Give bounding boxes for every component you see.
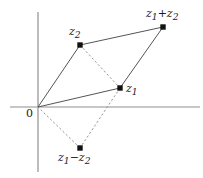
point-marker-difference bbox=[77, 145, 82, 150]
difference-label-operator: − bbox=[70, 151, 79, 164]
z1-label-subscript: 1 bbox=[132, 86, 138, 97]
origin-label-text: 0 bbox=[26, 107, 33, 120]
edge-origin-to-z2 bbox=[38, 45, 80, 107]
z1-label: z1 bbox=[126, 83, 138, 96]
dashed-edge-z1-to-difference bbox=[80, 88, 120, 148]
diagram-canvas bbox=[0, 0, 203, 178]
difference-label-second-subscript: 2 bbox=[85, 155, 91, 166]
origin-label: 0 bbox=[26, 108, 33, 119]
edge-z2-to-sum bbox=[80, 27, 163, 45]
edge-origin-to-z1 bbox=[38, 88, 120, 107]
sum-label-operator: + bbox=[158, 7, 167, 20]
z2-label: z2 bbox=[69, 26, 81, 39]
vector-diagram-figure: 0 z2 z1 z1+z2 z1−z2 bbox=[0, 0, 203, 178]
sum-label-second-subscript: 2 bbox=[173, 11, 179, 22]
difference-label: z1−z2 bbox=[58, 152, 90, 165]
dashed-edge-z2-to-z1 bbox=[80, 45, 120, 88]
point-marker-sum bbox=[160, 24, 165, 29]
point-marker-z1 bbox=[117, 85, 122, 90]
point-marker-z2 bbox=[77, 42, 82, 47]
sum-label: z1+z2 bbox=[146, 8, 178, 21]
dashed-edge-difference-to-origin bbox=[38, 107, 80, 148]
z2-label-subscript: 2 bbox=[75, 29, 81, 40]
edge-z1-to-sum bbox=[120, 27, 163, 88]
